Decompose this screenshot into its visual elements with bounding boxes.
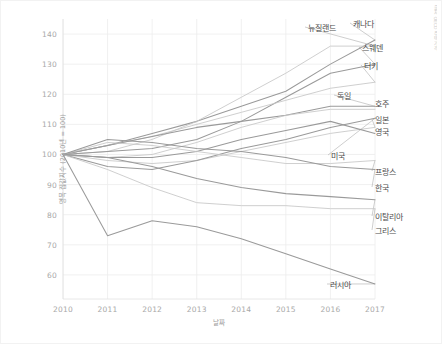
source-note: 출처 OECD 주택가격: [425, 5, 437, 65]
x-axis-title: 날짜: [213, 317, 225, 327]
gridlines: [63, 19, 375, 299]
plot-area: 14013012011010090807060 2010201120122013…: [63, 19, 375, 299]
y-tick-label: 90: [47, 180, 57, 189]
series-label-스웨덴: 스웨덴: [362, 42, 383, 53]
x-tick-label: 2016: [320, 305, 340, 314]
x-tick-label: 2010: [53, 305, 73, 314]
series-label-터키: 터키: [364, 60, 378, 71]
series-label-프랑스: 프랑스: [375, 166, 396, 177]
y-tick-label: 120: [42, 90, 57, 99]
x-tick-label: 2012: [142, 305, 162, 314]
x-tick-label: 2017: [365, 305, 385, 314]
series-label-호주: 호주: [375, 98, 389, 109]
series-label-뉴질랜드: 뉴질랜드: [308, 22, 336, 33]
chart-canvas: [63, 19, 375, 299]
chart-figure: 14013012011010090807060 2010201120122013…: [0, 0, 442, 344]
axis-spines: [63, 19, 375, 299]
y-tick-label: 80: [47, 210, 57, 219]
y-tick-label: 130: [42, 60, 57, 69]
series-label-캐나다: 캐나다: [353, 18, 374, 29]
series-lines: [63, 40, 375, 284]
series-label-그리스: 그리스: [375, 225, 396, 236]
x-tick-label: 2015: [276, 305, 296, 314]
series-label-독일: 독일: [337, 90, 351, 101]
x-tick-label: 2014: [231, 305, 251, 314]
series-label-일본: 일본: [375, 114, 389, 125]
y-axis-title: 명목 집값지수 (2010년 = 100): [57, 114, 67, 204]
x-tick-label: 2011: [98, 305, 118, 314]
y-tick-label: 60: [47, 270, 57, 279]
series-label-미국: 미국: [331, 150, 345, 161]
y-tick-label: 70: [47, 240, 57, 249]
x-tick-label: 2013: [187, 305, 207, 314]
series-label-이탈리아: 이탈리아: [375, 211, 403, 222]
y-tick-label: 110: [42, 120, 57, 129]
series-label-한국: 한국: [375, 182, 389, 193]
y-tick-label: 140: [42, 30, 57, 39]
series-label-영국: 영국: [375, 126, 389, 137]
series-label-러시아: 러시아: [330, 279, 351, 290]
y-tick-label: 100: [42, 150, 57, 159]
